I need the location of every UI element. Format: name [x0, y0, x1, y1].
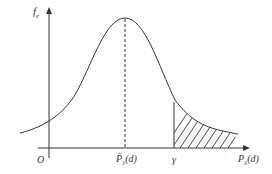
origin-label: O	[37, 155, 44, 165]
density-diagram	[0, 0, 272, 174]
density-curve	[20, 18, 238, 134]
x-axis-arrow-icon	[243, 145, 250, 151]
mean-label: P̄λ(d)	[116, 154, 137, 167]
y-axis-label: fe	[33, 6, 39, 20]
threshold-label: γ	[172, 155, 176, 165]
y-axis-arrow-icon	[46, 7, 52, 14]
x-axis-label: Pλ(d)	[238, 154, 259, 167]
